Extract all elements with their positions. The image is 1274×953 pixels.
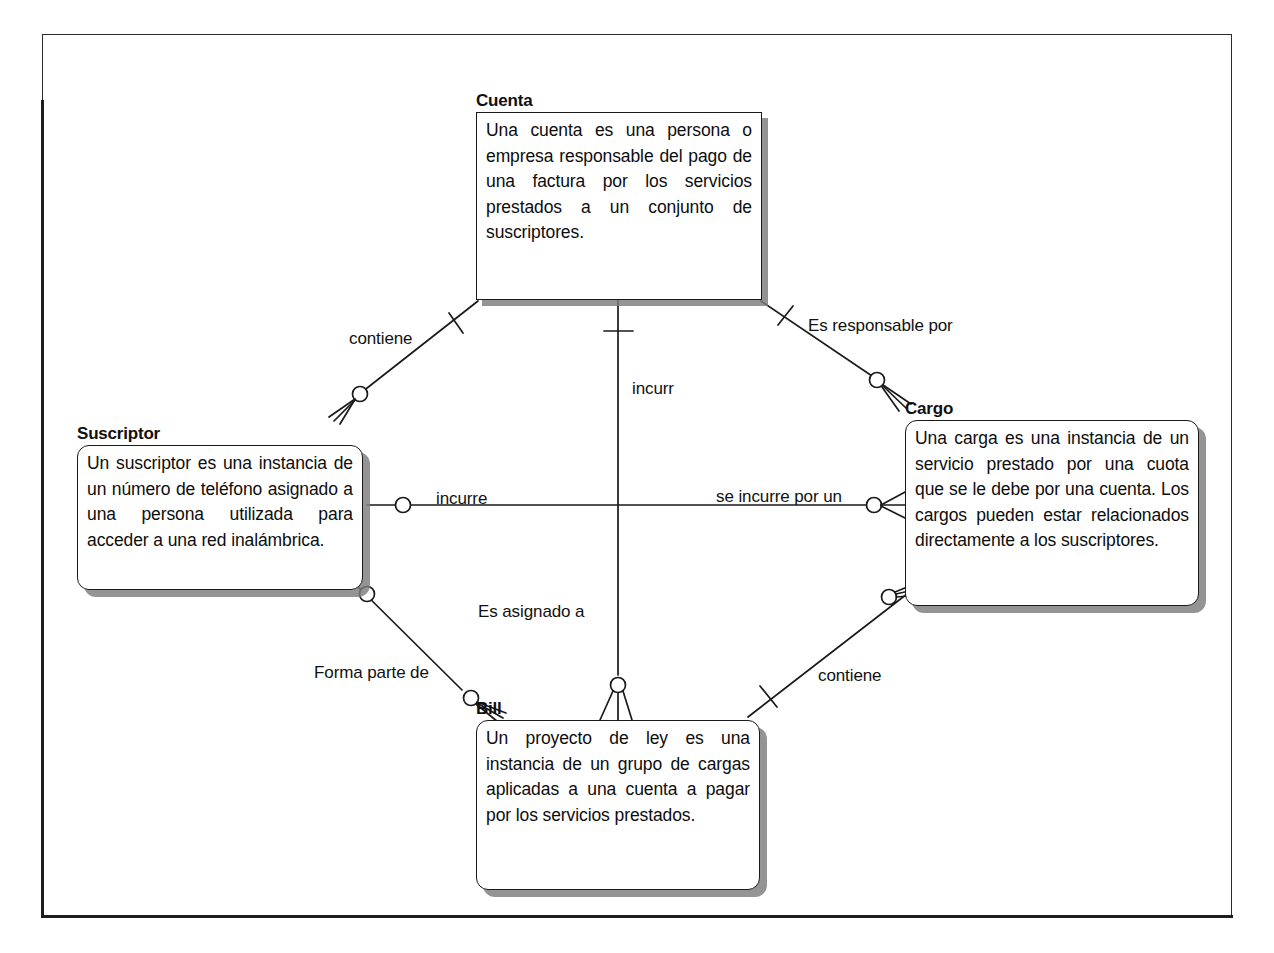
entity-suscriptor-title: Suscriptor: [77, 425, 377, 443]
entity-cuenta-body[interactable]: Una cuenta es una persona o empresa resp…: [476, 112, 762, 300]
entity-bill-body[interactable]: Un proyecto de ley es una instancia de u…: [476, 720, 760, 890]
relationship-label-incurr: incurr: [632, 379, 674, 399]
diagram-page: Cuenta Una cuenta es una persona o empre…: [0, 0, 1274, 953]
relationship-label-forma-parte-de: Forma parte de: [314, 663, 429, 683]
entity-cargo-body[interactable]: Una carga es una instancia de un servici…: [905, 420, 1199, 606]
entity-bill-title: Bill: [476, 700, 776, 718]
relationship-label-contiene-cargo-bill: contiene: [818, 666, 881, 686]
entity-cargo-title: Cargo: [905, 400, 1215, 418]
entity-cuenta-description: Una cuenta es una persona o empresa resp…: [477, 113, 761, 246]
entity-bill-description: Un proyecto de ley es una instancia de u…: [477, 721, 759, 828]
entity-cuenta[interactable]: Cuenta Una cuenta es una persona o empre…: [476, 92, 768, 300]
frame-bottom-edge: [41, 915, 1233, 918]
entity-cargo-description: Una carga es una instancia de un servici…: [906, 421, 1198, 554]
entity-suscriptor[interactable]: Suscriptor Un suscriptor es una instanci…: [77, 425, 377, 590]
relationship-label-contiene-cuenta-suscriptor: contiene: [349, 329, 412, 349]
entity-suscriptor-description: Un suscriptor es una instancia de un núm…: [78, 446, 362, 553]
frame-left-edge: [41, 100, 44, 918]
entity-cargo[interactable]: Cargo Una carga es una instancia de un s…: [905, 400, 1215, 606]
entity-suscriptor-body[interactable]: Un suscriptor es una instancia de un núm…: [77, 445, 363, 590]
entity-bill[interactable]: Bill Un proyecto de ley es una instancia…: [476, 700, 776, 890]
relationship-label-es-responsable-por: Es responsable por: [808, 316, 953, 336]
relationship-label-incurre: incurre: [436, 489, 487, 509]
relationship-label-es-asignado-a: Es asignado a: [478, 602, 584, 622]
relationship-label-se-incurre-por-un: se incurre por un: [716, 487, 842, 507]
entity-cuenta-title: Cuenta: [476, 92, 768, 110]
